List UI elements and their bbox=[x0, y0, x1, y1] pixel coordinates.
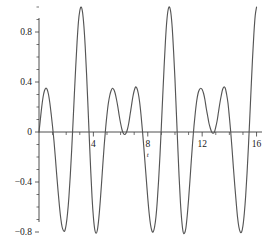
y-tick-label: 0.8 bbox=[20, 27, 32, 37]
y-tick-label: 0.4 bbox=[20, 77, 32, 87]
x-tick-label: 4 bbox=[91, 139, 96, 149]
y-tick-label: −0.8 bbox=[15, 227, 32, 236]
y-axis-tick-labels: −0.8−0.400.40.8 bbox=[15, 27, 32, 236]
chart-figure: −0.8−0.400.40.8 481216 t bbox=[0, 0, 271, 236]
x-axis-label: t bbox=[147, 151, 150, 159]
x-tick-label: 12 bbox=[197, 139, 207, 149]
y-tick-label: −0.4 bbox=[15, 177, 32, 187]
x-axis-ticks bbox=[53, 132, 257, 137]
y-axis-ticks bbox=[35, 7, 39, 232]
x-tick-label: 8 bbox=[145, 139, 150, 149]
data-series-line bbox=[39, 7, 257, 234]
plot-canvas: −0.8−0.400.40.8 481216 t bbox=[0, 0, 271, 236]
y-tick-label: 0 bbox=[27, 127, 32, 137]
x-tick-label: 16 bbox=[252, 139, 262, 149]
x-axis-tick-labels: 481216 bbox=[91, 139, 262, 149]
